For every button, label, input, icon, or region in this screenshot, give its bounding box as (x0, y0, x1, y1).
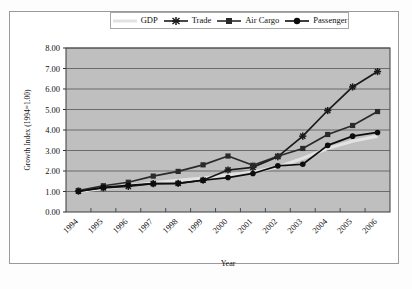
datapoint-air-cargo-2002 (275, 154, 280, 159)
datapoint-passenger-1995 (101, 185, 107, 191)
datapoint-air-cargo-2004 (325, 132, 330, 137)
x-tick-label: 1998 (160, 216, 179, 235)
x-tick-label: 1995 (86, 216, 105, 235)
datapoint-passenger-1998 (175, 181, 181, 187)
datapoint-trade-2004 (324, 107, 331, 114)
datapoint-passenger-2001 (250, 171, 256, 177)
datapoint-passenger-2002 (275, 163, 281, 169)
y-axis-title: Growth Index (1994=1.00) (23, 89, 32, 171)
datapoint-passenger-2000 (225, 175, 231, 181)
x-tick-label: 1999 (185, 216, 204, 235)
x-tick-label: 1996 (111, 216, 130, 235)
x-tick-label: 2003 (285, 216, 304, 235)
y-tick-label: 3.00 (45, 146, 60, 156)
datapoint-air-cargo-1997 (151, 174, 156, 179)
x-tick-label: 2002 (260, 216, 279, 235)
y-tick-label: 1.00 (45, 187, 60, 197)
y-tick-label: 7.00 (45, 64, 60, 74)
datapoint-trade-2000 (224, 166, 231, 173)
y-tick-label: 6.00 (45, 84, 60, 94)
chart-screenshot: GDP Trade Air Cargo (0, 0, 412, 289)
x-tick-label: 2006 (360, 216, 379, 235)
datapoint-air-cargo-2001 (250, 163, 255, 168)
datapoint-trade-2006 (374, 68, 381, 75)
x-tick-label: 1994 (61, 216, 81, 236)
y-tick-label: 4.00 (45, 125, 60, 135)
datapoint-passenger-1994 (76, 189, 82, 195)
datapoint-air-cargo-1998 (176, 169, 181, 174)
datapoint-air-cargo-2006 (375, 109, 380, 114)
datapoint-air-cargo-1999 (200, 162, 205, 167)
x-tick-label: 2005 (335, 216, 354, 235)
datapoint-passenger-2004 (325, 143, 331, 149)
datapoint-trade-2005 (349, 83, 356, 90)
y-tick-label: 5.00 (45, 105, 60, 115)
x-tick-label: 2004 (310, 216, 330, 236)
datapoint-passenger-2003 (300, 161, 306, 167)
y-tick-label: 0.00 (45, 207, 60, 217)
y-tick-label: 2.00 (45, 166, 60, 176)
datapoint-air-cargo-2003 (300, 146, 305, 151)
datapoint-passenger-2006 (375, 130, 381, 136)
datapoint-air-cargo-2005 (350, 123, 355, 128)
datapoint-air-cargo-2000 (225, 153, 230, 158)
datapoint-passenger-1997 (150, 181, 156, 187)
x-tick-label: 2001 (235, 216, 254, 235)
y-tick-label: 8.00 (45, 43, 60, 53)
x-tick-label: 1997 (136, 216, 155, 235)
x-tick-label: 2000 (210, 216, 229, 235)
datapoint-passenger-1996 (126, 183, 132, 189)
x-axis-title: Year (221, 259, 236, 268)
datapoint-passenger-2005 (350, 133, 356, 139)
datapoint-trade-2003 (299, 133, 306, 140)
growth-index-line-chart: 0.001.002.003.004.005.006.007.008.001994… (0, 0, 412, 289)
datapoint-passenger-1999 (200, 177, 206, 183)
